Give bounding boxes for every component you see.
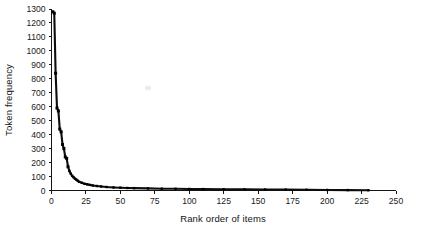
x-tick-label: 200 [320,196,335,206]
data-marker [62,147,65,150]
data-marker [58,128,61,131]
x-tick-label: 225 [354,196,369,206]
data-marker [67,165,70,168]
data-marker [83,183,85,185]
x-tick-label: 25 [81,196,91,206]
data-marker [188,188,190,190]
data-marker [147,187,149,189]
x-tick-label: 100 [182,196,197,206]
x-tick-label: 0 [49,196,54,206]
y-tick-label: 300 [31,144,46,154]
x-tick-label: 175 [285,196,300,206]
y-tick-label: 400 [31,130,46,140]
x-tick-label: 50 [116,196,126,206]
y-tick-label: 100 [31,172,46,182]
data-marker [223,188,225,190]
y-tick-label: 1100 [27,32,46,42]
x-tick-label: 150 [251,196,266,206]
y-tick-label: 1300 [26,4,45,14]
data-marker [92,184,94,186]
data-marker [243,188,245,190]
y-tick-label: 200 [31,158,46,168]
data-marker [305,189,307,191]
data-marker [347,189,349,191]
data-marker [68,170,70,172]
scan-artifact [145,86,151,90]
data-marker [174,188,176,190]
data-marker [105,186,107,188]
y-axis-title: Token frequency [3,64,14,136]
data-marker [264,188,266,190]
data-marker [100,185,102,187]
data-marker [126,187,128,189]
data-marker [61,143,64,146]
token-frequency-chart: 0100200300400500600700800900100011001200… [0,0,421,232]
data-marker [57,109,60,112]
y-tick-label: 600 [31,102,46,112]
data-marker [202,188,204,190]
data-marker [133,187,135,189]
data-marker [86,183,88,185]
y-tick-label: 900 [31,60,46,70]
data-marker [367,189,369,191]
x-tick-label: 75 [150,196,160,206]
y-tick-label: 700 [31,88,46,98]
data-marker [78,181,80,183]
data-marker [54,72,57,75]
y-tick-label: 500 [31,116,46,126]
data-marker [70,173,72,175]
x-tick-label: 250 [389,196,404,206]
y-tick-label: 1000 [26,46,45,56]
data-marker [112,186,114,188]
data-marker [161,187,163,189]
data-marker [60,130,63,133]
data-marker [53,12,56,15]
x-axis-title: Rank order of items [180,213,266,224]
data-marker [81,182,83,184]
data-marker [285,188,287,190]
y-tick-label: 800 [31,74,46,84]
x-tick-label: 125 [217,196,232,206]
data-marker [56,107,59,110]
data-marker [89,184,91,186]
data-marker [326,189,328,191]
data-marker [119,187,121,189]
figure-container: 0100200300400500600700800900100011001200… [0,0,421,232]
y-tick-label: 1200 [26,18,45,28]
data-marker [96,185,98,187]
data-marker [65,157,68,160]
y-tick-label: 0 [41,186,46,196]
